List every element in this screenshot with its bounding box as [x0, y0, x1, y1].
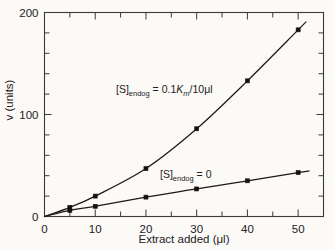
y-tick-label: 200	[19, 7, 38, 19]
plot-frame	[45, 13, 324, 217]
y-tick-label: 100	[19, 109, 38, 121]
enzyme-kinetics-chart: 0100200 01020304050 [S]endog = 0.1Km/10μ…	[0, 0, 334, 250]
data-point-marker	[93, 194, 97, 198]
y-axis-tick-labels: 0100200	[19, 7, 38, 223]
y-axis-title: v (units)	[3, 79, 15, 120]
data-point-marker	[296, 28, 300, 32]
x-tick-label: 50	[292, 223, 305, 235]
data-point-marker	[245, 179, 249, 183]
y-tick-label: 0	[32, 211, 38, 223]
data-point-marker	[144, 167, 148, 171]
series-upper-curve	[45, 22, 306, 216]
data-point-marker	[93, 204, 97, 208]
data-point-marker	[68, 208, 72, 212]
figure-container: 0100200 01020304050 [S]endog = 0.1Km/10μ…	[0, 0, 334, 250]
data-point-marker	[144, 195, 148, 199]
x-axis-title: Extract added (μl)	[139, 233, 230, 245]
x-axis-ticks	[45, 13, 299, 217]
data-point-marker	[245, 79, 249, 83]
x-tick-label: 10	[89, 223, 102, 235]
data-point-marker	[296, 171, 300, 175]
annotation-upper-curve: [S]endog = 0.1Km/10μl	[116, 83, 213, 98]
data-point-marker	[195, 127, 199, 131]
x-tick-label: 40	[241, 223, 254, 235]
y-axis-ticks	[45, 13, 324, 217]
annotation-lower-curve: [S]endog = 0	[160, 168, 212, 183]
x-tick-label: 0	[41, 223, 47, 235]
data-point-marker	[195, 187, 199, 191]
